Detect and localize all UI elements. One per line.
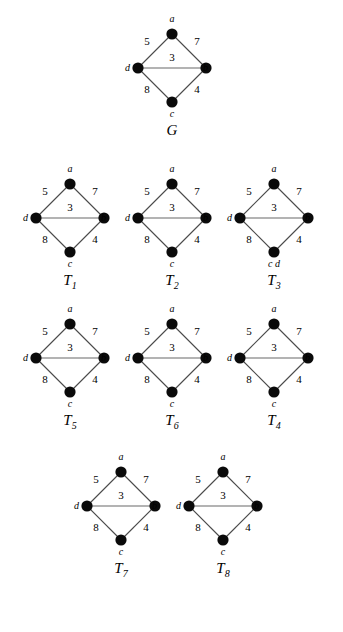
graph-caption-subscript: 2	[174, 280, 179, 291]
vertex-label-b: b	[203, 213, 208, 223]
vertex-d	[132, 62, 143, 73]
graph-caption-subscript: 4	[276, 420, 281, 431]
edge-c-b	[223, 506, 257, 540]
edge-weight-c-b: 4	[194, 233, 200, 245]
edge-weight-c-b: 4	[296, 233, 302, 245]
vertex-a	[268, 318, 279, 329]
graph-caption-t3: T3	[219, 272, 329, 294]
edge-d-c	[138, 68, 172, 102]
vertex-d	[132, 352, 143, 363]
graph-t6: 57384adbcT6	[117, 304, 227, 434]
edge-weight-d-b: 3	[67, 341, 73, 353]
graph-caption-subscript: 5	[72, 420, 77, 431]
vertex-label-a: a	[15, 164, 125, 174]
edge-a-b	[274, 184, 308, 218]
edge-c-b	[70, 358, 104, 392]
graph-caption-t1: T1	[15, 272, 125, 294]
vertex-label-c: c	[117, 109, 227, 119]
edge-weight-d-b: 3	[271, 201, 277, 213]
graph-caption-t5: T5	[15, 412, 125, 434]
vertex-d	[234, 352, 245, 363]
vertex-label-d: d	[125, 213, 130, 223]
edge-weight-a-d: 5	[144, 185, 150, 197]
edge-weight-c-b: 4	[194, 83, 200, 95]
graph-t5: 57384adbcT5	[15, 304, 125, 434]
edge-c-b	[172, 358, 206, 392]
vertex-label-d: d	[227, 353, 232, 363]
vertex-c	[115, 534, 126, 545]
edge-c-b	[274, 358, 308, 392]
vertex-label-b: b	[152, 501, 157, 511]
edge-c-b	[121, 506, 155, 540]
graph-t2: 57384adbcT2	[117, 164, 227, 294]
vertex-label-d: d	[227, 213, 232, 223]
vertex-a	[166, 318, 177, 329]
edge-weight-d-c: 8	[246, 373, 252, 385]
graph-t3: 57384adbc dT3	[219, 164, 329, 294]
edge-a-d	[240, 184, 274, 218]
graph-drawing: 57384	[15, 164, 125, 272]
graph-caption-base: T	[63, 272, 71, 288]
graph-caption-base: T	[63, 412, 71, 428]
figure-root: 57384adbcG57384adbcT157384adbcT257384adb…	[0, 0, 343, 632]
edge-a-d	[138, 34, 172, 68]
edge-weight-a-d: 5	[195, 473, 201, 485]
graph-caption-t6: T6	[117, 412, 227, 434]
graph-g: 57384adbcG	[117, 14, 227, 144]
vertex-label-c: c	[15, 399, 125, 409]
edge-weight-d-b: 3	[220, 489, 226, 501]
edge-weight-c-b: 4	[296, 373, 302, 385]
graph-caption-subscript: 3	[276, 280, 281, 291]
edge-weight-a-b: 7	[296, 325, 302, 337]
vertex-c	[166, 386, 177, 397]
edge-weight-a-d: 5	[93, 473, 99, 485]
edge-weight-c-b: 4	[245, 521, 251, 533]
edge-a-b	[223, 472, 257, 506]
vertex-a	[64, 318, 75, 329]
vertex-a	[166, 178, 177, 189]
edge-weight-a-b: 7	[194, 325, 200, 337]
vertex-c	[64, 386, 75, 397]
edge-weight-a-b: 7	[194, 35, 200, 47]
vertex-a	[217, 466, 228, 477]
vertex-c	[166, 96, 177, 107]
edge-d-c	[36, 218, 70, 252]
vertex-label-d: d	[125, 63, 130, 73]
vertex-c	[268, 246, 279, 257]
edge-a-b	[172, 184, 206, 218]
edge-d-c	[138, 358, 172, 392]
graph-caption-t4: T4	[219, 412, 329, 434]
vertex-label-b: b	[305, 213, 310, 223]
vertex-label-b: b	[305, 353, 310, 363]
vertex-c	[268, 386, 279, 397]
edge-a-b	[274, 324, 308, 358]
vertex-label-c: c	[15, 259, 125, 269]
vertex-label-a: a	[117, 304, 227, 314]
edge-weight-d-c: 8	[246, 233, 252, 245]
graph-caption-base: T	[267, 272, 275, 288]
graph-drawing: 57384	[66, 452, 176, 560]
graph-drawing: 57384	[219, 164, 329, 272]
vertex-d	[132, 212, 143, 223]
vertex-d	[30, 352, 41, 363]
edge-c-b	[172, 218, 206, 252]
edge-a-b	[121, 472, 155, 506]
vertex-label-a: a	[117, 14, 227, 24]
edge-weight-d-c: 8	[42, 373, 48, 385]
edge-weight-d-c: 8	[144, 83, 150, 95]
graph-caption-subscript: 7	[123, 568, 128, 579]
graph-caption-subscript: 1	[72, 280, 77, 291]
edge-weight-a-b: 7	[92, 185, 98, 197]
edge-weight-d-c: 8	[144, 373, 150, 385]
graph-caption-base: T	[165, 272, 173, 288]
graph-t1: 57384adbcT1	[15, 164, 125, 294]
edge-weight-d-b: 3	[67, 201, 73, 213]
graph-caption-t8: T8	[168, 560, 278, 582]
edge-d-c	[240, 358, 274, 392]
edge-a-b	[172, 324, 206, 358]
graph-drawing: 57384	[219, 304, 329, 412]
edge-c-b	[172, 68, 206, 102]
graph-t7: 57384adbcT7	[66, 452, 176, 582]
vertex-label-b: b	[254, 501, 259, 511]
graph-caption-base: T	[216, 560, 224, 576]
